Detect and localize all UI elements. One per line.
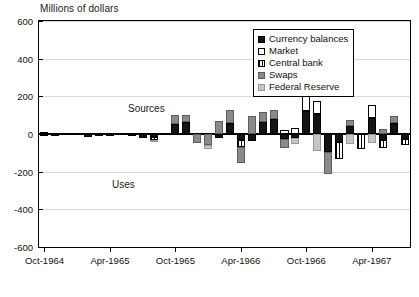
x-axis-tick [110, 248, 111, 252]
bar-segment [313, 114, 321, 134]
x-axis-label: Oct-1966 [287, 255, 326, 266]
legend-swatch-dark-gray [258, 72, 265, 79]
x-axis-tick [175, 248, 176, 252]
chart-title: Millions of dollars [40, 3, 119, 14]
legend-swatch-solid-black [258, 36, 265, 43]
bar-segment [193, 134, 201, 143]
x-axis-tick [44, 248, 45, 252]
bar-segment [368, 105, 376, 118]
bar-column [73, 21, 81, 247]
bar-segment [390, 116, 398, 123]
bar-segment [150, 140, 158, 142]
chart-figure: Millions of dollars Currency balancesMar… [0, 0, 419, 297]
bar-column [150, 21, 158, 247]
bar-column [40, 21, 48, 247]
bar-column [193, 21, 201, 247]
bar-segment [313, 101, 321, 114]
legend-label: Currency balances [269, 33, 348, 45]
y-axis-label: 0 [28, 129, 33, 140]
bar-column [95, 21, 103, 247]
y-axis-label: -200 [14, 166, 33, 177]
bar-column [171, 21, 179, 247]
legend-label: Federal Reserve [269, 81, 339, 93]
y-axis-label: -600 [14, 242, 33, 253]
plot-inner [39, 21, 410, 247]
bar-segment [237, 147, 245, 163]
bar-column [62, 21, 70, 247]
bar-segment [291, 138, 299, 145]
legend-label: Central bank [269, 57, 323, 69]
bar-segment [390, 123, 398, 134]
bar-segment [302, 111, 310, 134]
bar-segment [346, 134, 354, 144]
bar-segment [346, 120, 354, 126]
bar-segment [302, 96, 310, 111]
bar-column [128, 21, 136, 247]
bar-segment [139, 134, 147, 138]
bar-column [357, 21, 365, 247]
chart-legend: Currency balancesMarketCentral bankSwaps… [253, 29, 354, 97]
bar-segment [270, 110, 278, 119]
bar-column [51, 21, 59, 247]
legend-item: Market [258, 45, 348, 57]
x-axis-label: Apr-1966 [221, 255, 260, 266]
bar-segment [182, 115, 190, 122]
bar-column [160, 21, 168, 247]
x-axis-label: Apr-1967 [352, 255, 391, 266]
y-axis-label: 200 [17, 91, 33, 102]
bar-segment [226, 110, 234, 124]
y-axis-label: 400 [17, 53, 33, 64]
plot-area [38, 20, 411, 248]
bar-segment [346, 126, 354, 134]
legend-swatch-white-outline [258, 48, 265, 55]
bar-column [204, 21, 212, 247]
bar-segment [357, 134, 365, 149]
x-axis-label: Oct-1964 [25, 255, 64, 266]
bar-segment [248, 116, 256, 134]
bar-column [368, 21, 376, 247]
bar-segment [280, 139, 288, 147]
bar-segment [95, 134, 103, 136]
bar-segment [313, 134, 321, 151]
bar-segment [379, 140, 387, 148]
legend-item: Central bank [258, 57, 348, 69]
legend-label: Swaps [269, 69, 298, 81]
bar-column [139, 21, 147, 247]
bar-segment [182, 122, 190, 134]
legend-swatch-vertical-hatch [258, 60, 265, 67]
bar-segment [215, 121, 223, 134]
legend-label: Market [269, 45, 298, 57]
bar-segment [379, 129, 387, 134]
bar-segment [226, 123, 234, 134]
bar-segment [335, 134, 343, 142]
bar-segment [248, 134, 256, 141]
bar-segment [171, 115, 179, 123]
bar-segment [270, 119, 278, 134]
bar-segment [259, 112, 267, 122]
bar-column [237, 21, 245, 247]
bar-segment [259, 122, 267, 134]
bar-segment [106, 134, 114, 136]
bar-segment [324, 152, 332, 175]
legend-item: Federal Reserve [258, 81, 348, 93]
bar-segment [51, 133, 59, 135]
bar-segment [280, 130, 288, 134]
bar-segment [368, 134, 376, 143]
bar-segment [204, 134, 212, 145]
legend-item: Swaps [258, 69, 348, 81]
x-axis-tick [306, 248, 307, 252]
bar-column [182, 21, 190, 247]
x-axis-label: Apr-1965 [90, 255, 129, 266]
bar-column [84, 21, 92, 247]
bar-segment [84, 134, 92, 137]
bar-segment [171, 124, 179, 134]
x-axis-tick [241, 248, 242, 252]
bar-column [117, 21, 125, 247]
y-axis-label: -400 [14, 204, 33, 215]
y-axis-label: 600 [17, 16, 33, 27]
legend-item: Currency balances [258, 33, 348, 45]
bar-column [226, 21, 234, 247]
bar-segment [335, 142, 343, 160]
bar-segment [401, 139, 409, 146]
bar-column [106, 21, 114, 247]
